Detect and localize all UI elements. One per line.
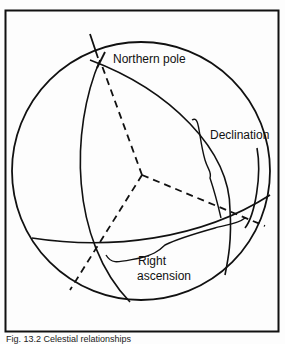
- axis-to-lower-left: [70, 175, 142, 290]
- polar-axis: [101, 63, 142, 175]
- right-ascension-brace: [106, 218, 245, 262]
- label-declination: Declination: [210, 129, 269, 142]
- label-right-ascension-1: Right: [138, 255, 166, 268]
- pole-tick: [90, 34, 98, 58]
- hour-circle-arc: [245, 148, 259, 228]
- figure-caption: Fig. 13.2 Celestial relationships: [6, 334, 131, 344]
- meridian-left: [80, 60, 130, 302]
- axis-to-right: [142, 175, 265, 226]
- label-right-ascension-2: ascension: [137, 270, 191, 283]
- celestial-equator: [32, 195, 270, 243]
- label-northern-pole: Northern pole: [113, 53, 186, 66]
